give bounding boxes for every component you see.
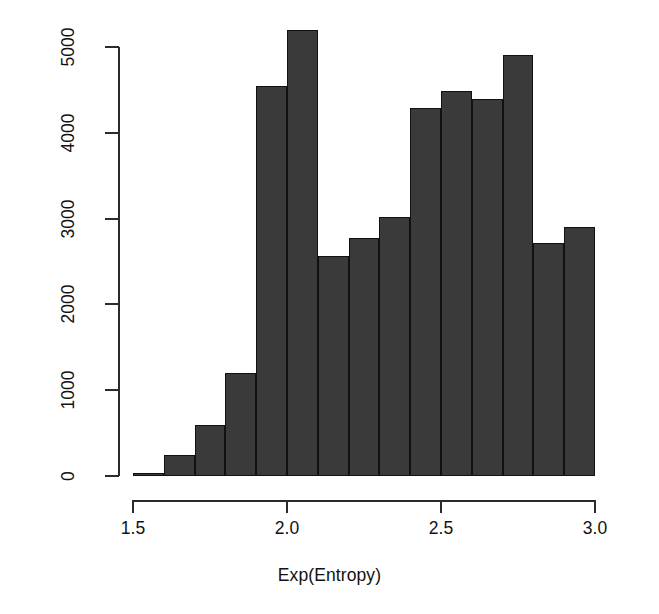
y-axis-tick-label: 0 bbox=[40, 464, 96, 488]
x-axis-tick bbox=[286, 500, 288, 513]
x-axis-tick-label: 1.5 bbox=[98, 518, 168, 539]
y-axis-tick bbox=[105, 475, 119, 477]
histogram-bar bbox=[533, 243, 564, 476]
x-axis-line bbox=[133, 500, 595, 502]
y-axis-tick-label: 5000 bbox=[40, 35, 96, 59]
y-axis-tick bbox=[105, 218, 119, 220]
y-axis-line bbox=[118, 47, 120, 476]
histogram-bar bbox=[379, 217, 410, 476]
x-axis-tick bbox=[132, 500, 134, 513]
x-axis-tick bbox=[594, 500, 596, 513]
x-axis-tick-label: 2.0 bbox=[252, 518, 322, 539]
histogram-bar bbox=[503, 55, 534, 476]
histogram-bar bbox=[164, 455, 195, 476]
y-axis-tick bbox=[105, 389, 119, 391]
y-axis-tick-label: 1000 bbox=[40, 378, 96, 402]
histogram-bar bbox=[564, 227, 595, 476]
y-axis-tick-label: 4000 bbox=[40, 121, 96, 145]
x-axis-title: Exp(Entropy) bbox=[0, 565, 659, 586]
y-axis-tick bbox=[105, 132, 119, 134]
histogram-chart: Number of Voters 010002000300040005000 1… bbox=[0, 0, 659, 614]
histogram-bar bbox=[133, 473, 164, 476]
x-axis-tick-label: 3.0 bbox=[560, 518, 630, 539]
histogram-bar bbox=[225, 373, 256, 476]
histogram-bar bbox=[349, 238, 380, 476]
y-axis-tick bbox=[105, 46, 119, 48]
histogram-bar bbox=[410, 108, 441, 476]
histogram-bar bbox=[441, 91, 472, 476]
y-axis-tick bbox=[105, 303, 119, 305]
x-axis-tick bbox=[440, 500, 442, 513]
histogram-bar bbox=[195, 425, 226, 476]
histogram-bar bbox=[256, 86, 287, 476]
y-axis-tick-label: 3000 bbox=[40, 207, 96, 231]
histogram-bar bbox=[318, 256, 349, 476]
x-axis-tick-label: 2.5 bbox=[406, 518, 476, 539]
histogram-bar bbox=[472, 99, 503, 476]
histogram-bar bbox=[287, 30, 318, 476]
y-axis-tick-label: 2000 bbox=[40, 292, 96, 316]
